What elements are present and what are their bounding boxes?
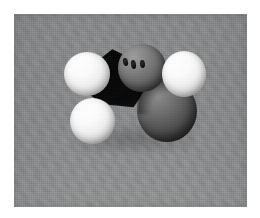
atom-sphere-white-upper-right bbox=[162, 51, 206, 97]
atom-sphere-white-lower-left bbox=[70, 98, 115, 144]
photograph-plate bbox=[14, 14, 247, 207]
figure-root bbox=[0, 0, 260, 218]
figure-caption bbox=[0, 0, 1, 1]
molecular-model bbox=[14, 14, 247, 207]
atom-sphere-white-left bbox=[64, 52, 110, 96]
